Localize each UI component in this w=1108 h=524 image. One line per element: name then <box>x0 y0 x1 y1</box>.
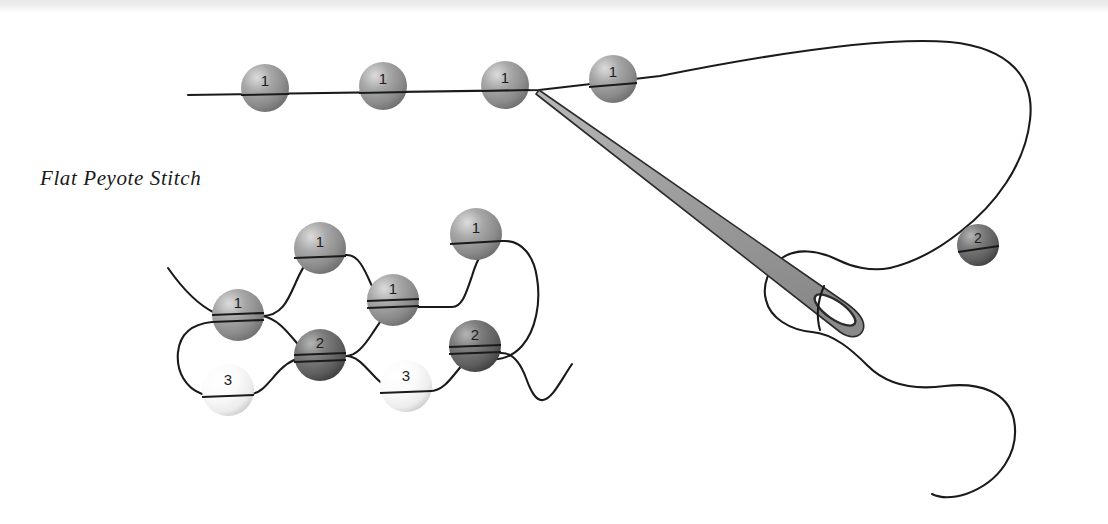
peyote-bead-top-2-label: 1 <box>472 219 480 236</box>
top-bead-1: 1 <box>241 64 289 112</box>
peyote-bead-3-right: 3 <box>380 360 432 412</box>
top-bead-3-label: 1 <box>501 69 509 86</box>
peyote-bead-mid-right-1: 1 <box>367 274 419 326</box>
peyote-bead-2-right: 2 <box>449 320 501 372</box>
top-loop-bead-2-label: 2 <box>974 230 982 246</box>
figure-caption: Flat Peyote Stitch <box>40 166 201 191</box>
peyote-bead-3-left: 3 <box>202 364 254 416</box>
peyote-bead-2-left: 2 <box>294 329 346 381</box>
peyote-bead-2-right-label: 2 <box>471 326 479 343</box>
top-bead-1-label: 1 <box>261 72 269 89</box>
top-bead-3: 1 <box>481 61 529 109</box>
peyote-bead-3-right-label: 3 <box>402 367 410 384</box>
peyote-bead-top-2: 1 <box>450 208 502 260</box>
peyote-bead-mid-right-1-label: 1 <box>389 280 397 297</box>
top-bead-2: 1 <box>359 62 407 110</box>
peyote-bead-top-1-label: 1 <box>316 233 324 250</box>
peyote-bead-mid-left-1-label: 1 <box>234 294 242 311</box>
peyote-bead-mid-left-1: 1 <box>212 289 264 341</box>
bottom-diagram-group: 1 1 1 1 2 <box>168 208 572 416</box>
peyote-bead-3-left-label: 3 <box>224 371 232 388</box>
top-bead-4: 1 <box>589 55 637 103</box>
peyote-bead-2-left-label: 2 <box>316 334 324 351</box>
top-thread-tail-path <box>812 332 1015 497</box>
top-bead-2-label: 1 <box>379 70 387 87</box>
figure-canvas: 1 1 1 1 2 <box>0 0 1108 524</box>
peyote-bead-top-1: 1 <box>294 222 346 274</box>
top-bead-4-label: 1 <box>609 63 617 80</box>
peyote-stitch-illustration: 1 1 1 1 2 <box>0 0 1108 524</box>
peyote-thread-exit-tail <box>500 353 572 400</box>
top-loop-bead-2: 2 <box>957 224 999 266</box>
